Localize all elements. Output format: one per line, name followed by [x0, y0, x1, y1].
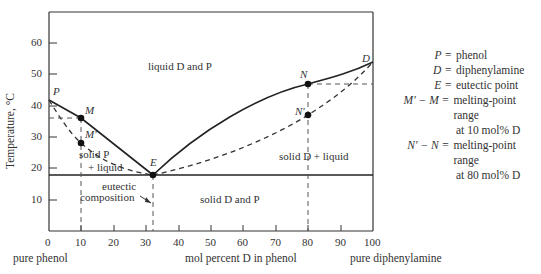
x-ticks	[81, 225, 341, 231]
point-label-E: E	[150, 156, 157, 168]
legend-row: M′ − M =melting-point range	[382, 93, 541, 123]
point-label-N-prime: N'	[295, 105, 305, 117]
y-tick-60: 60	[31, 36, 42, 48]
y-tick-50: 50	[31, 67, 42, 79]
point-label-D: D	[362, 52, 370, 64]
legend-key	[382, 123, 456, 138]
y-tick-20: 20	[31, 161, 42, 173]
legend-key	[382, 168, 456, 183]
y-tick-40: 40	[31, 99, 42, 111]
legend-key: D =	[382, 63, 456, 78]
x-tick-20: 20	[108, 236, 119, 248]
point-label-M: M	[85, 104, 94, 116]
legend-value: phenol	[456, 48, 487, 63]
y-tick-30: 30	[31, 130, 42, 142]
legend-value: at 10 mol% D	[456, 123, 520, 138]
y-axis-label: Temperature, °C	[4, 93, 16, 169]
x-tick-70: 70	[270, 236, 281, 248]
x-tick-10: 10	[75, 236, 86, 248]
region-solid-p-2: + liquid	[88, 161, 123, 173]
x-tick-50: 50	[205, 236, 216, 248]
x-axis-label: mol percent D in phenol	[185, 252, 297, 264]
legend-value: melting-point range	[453, 93, 541, 123]
region-liquid: liquid D and P	[148, 60, 212, 72]
x-tick-60: 60	[237, 236, 248, 248]
legend-row: at 80 mol% D	[382, 168, 541, 183]
legend-value: eutectic point	[456, 78, 518, 93]
legend-value: at 80 mol% D	[456, 168, 520, 183]
y-tick-10: 10	[31, 193, 42, 205]
x-tick-80: 80	[302, 236, 313, 248]
legend-row: P =phenol	[382, 48, 541, 63]
legend-row: N′ − N =melting-point range	[382, 138, 541, 168]
point-label-P: P	[53, 85, 60, 97]
x-tick-100: 100	[364, 236, 381, 248]
legend-row: E =eutectic point	[382, 78, 541, 93]
arrow-head-icon	[145, 197, 151, 203]
pure-phenol-label: pure phenol	[13, 252, 68, 264]
x-tick-0: 0	[45, 236, 51, 248]
x-tick-40: 40	[173, 236, 184, 248]
legend-value: melting-point range	[453, 138, 541, 168]
eutectic-label-2: composition	[80, 191, 134, 203]
x-tick-90: 90	[335, 236, 346, 248]
legend-row: D =diphenylamine	[382, 63, 541, 78]
region-solid-p-1: solid P	[79, 148, 109, 160]
legend-key: M′ − M =	[382, 93, 453, 123]
pure-diphenylamine-label: pure diphenylamine	[350, 252, 442, 264]
y-ticks	[49, 43, 57, 200]
legend-key: E =	[382, 78, 456, 93]
region-solid-d-and-p: solid D and P	[200, 193, 260, 205]
point-label-M-prime: M'	[85, 128, 97, 140]
legend-key: N′ − N =	[382, 138, 453, 168]
point-label-N: N	[300, 68, 307, 80]
region-solid-d-liquid: solid D + liquid	[279, 150, 348, 162]
legend-key: P =	[382, 48, 456, 63]
legend-value: diphenylamine	[456, 63, 524, 78]
legend-row: at 10 mol% D	[382, 123, 541, 138]
x-tick-30: 30	[140, 236, 151, 248]
region-liquid-text: liquid D and P	[148, 60, 212, 72]
legend: P =phenol D =diphenylamine E =eutectic p…	[382, 48, 541, 183]
